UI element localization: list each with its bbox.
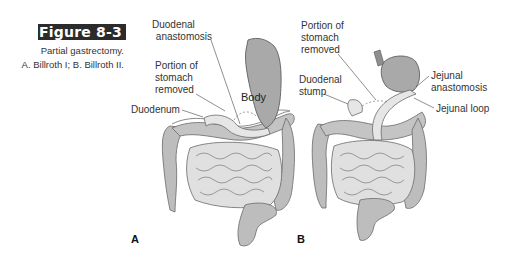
label-text: removed [301, 44, 344, 56]
panel-letter-a: A [131, 233, 139, 245]
gastrectomy-illustration [0, 0, 516, 254]
label-text: Portion of [301, 20, 344, 32]
label-duodenal-stump: Duodenal stump [299, 74, 342, 98]
label-text: Jejunal [431, 70, 487, 82]
label-portion-removed-a: Portion of stomach removed [155, 60, 198, 96]
label-text: stump [299, 86, 342, 98]
label-portion-removed-b: Portion of stomach removed [301, 20, 344, 56]
panel-letter-b: B [297, 233, 305, 245]
label-duodenum: Duodenum [131, 104, 180, 116]
label-text: anastomosis [431, 82, 487, 94]
label-body: Body [241, 91, 266, 103]
label-text: Duodenal [152, 19, 212, 31]
label-jejunal-anastomosis: Jejunal anastomosis [431, 70, 487, 94]
label-text: removed [155, 84, 198, 96]
label-jejunal-loop: Jejunal loop [436, 103, 489, 115]
label-text: Duodenal [299, 74, 342, 86]
label-text: anastomosis [152, 31, 212, 43]
label-text: stomach [301, 32, 344, 44]
label-text: stomach [155, 72, 198, 84]
label-text: Portion of [155, 60, 198, 72]
label-duodenal-anastomosis: Duodenal anastomosis [152, 19, 212, 43]
